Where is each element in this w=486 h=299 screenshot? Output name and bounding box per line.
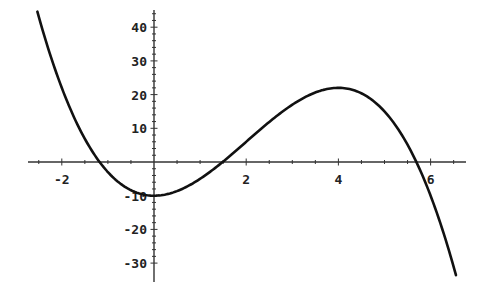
x-tick-label: 4 <box>334 172 342 187</box>
x-tick-label: -2 <box>54 172 70 187</box>
y-tick-label: 20 <box>131 88 147 103</box>
axes <box>28 10 466 282</box>
y-tick-label: 10 <box>131 121 147 136</box>
y-tick-label: 30 <box>131 54 147 69</box>
y-tick-label: -30 <box>124 256 148 271</box>
y-tick-label: 40 <box>131 20 147 35</box>
function-plot: -224640302010-10-20-30 <box>0 0 486 299</box>
axis-ticks <box>39 14 454 263</box>
y-tick-label: -20 <box>124 222 148 237</box>
function-curve <box>37 12 456 276</box>
x-tick-label: 6 <box>427 172 435 187</box>
x-tick-label: 2 <box>242 172 250 187</box>
tick-labels: -224640302010-10-20-30 <box>54 20 435 271</box>
